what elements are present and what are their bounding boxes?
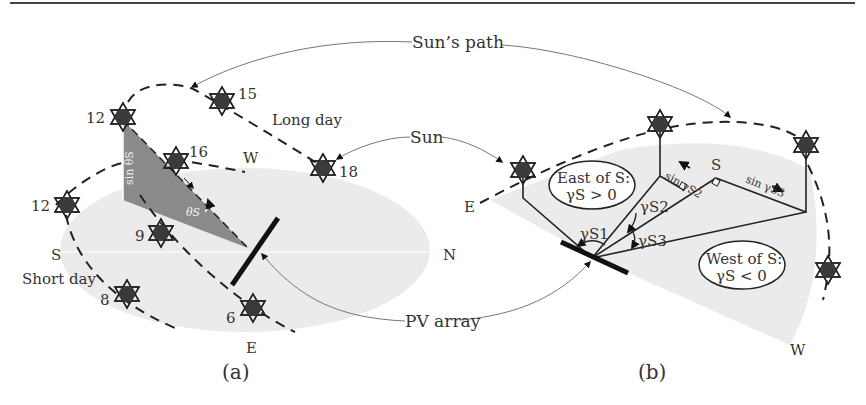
compass-west: W <box>243 149 259 167</box>
sun-callout: Sun <box>410 127 444 147</box>
compass-south: S <box>51 246 61 264</box>
west-of-south-label: West of S: <box>706 250 782 268</box>
compass-south-b: S <box>711 156 721 174</box>
short-day-label: Short day <box>22 270 96 288</box>
hour-label: 8 <box>100 291 110 309</box>
sun-icon <box>55 191 79 219</box>
theta-label: θS <box>186 206 201 219</box>
gamma-s1-label: γS1 <box>580 225 609 243</box>
hour-label: 12 <box>31 197 50 215</box>
solar-geometry-figure: 12 15 16 18 12 9 8 6 Long day Short day … <box>0 0 866 405</box>
gamma-s2-label: γS2 <box>640 198 669 216</box>
panel-b: East of S: γS > 0 West of S: γS < 0 γS1 … <box>464 110 840 384</box>
east-of-south-condition: γS > 0 <box>566 186 617 204</box>
compass-north: N <box>443 246 456 264</box>
hour-label: 6 <box>226 309 236 327</box>
long-day-label: Long day <box>272 111 343 129</box>
hour-label: 9 <box>135 227 145 245</box>
west-of-south-condition: γS < 0 <box>716 267 767 285</box>
sun-icon <box>816 256 840 284</box>
suns-path-callout: Sun’s path <box>412 32 504 52</box>
hour-label: 12 <box>86 109 105 127</box>
compass-west-b: W <box>790 341 806 359</box>
hour-label: 16 <box>189 143 208 161</box>
panel-a: 12 15 16 18 12 9 8 6 Long day Short day … <box>22 84 456 384</box>
hour-label: 18 <box>339 163 358 181</box>
gamma-s3-label: γS3 <box>638 232 667 250</box>
compass-east: E <box>246 339 257 357</box>
sin-theta-label: sin θS <box>123 151 136 185</box>
pv-array-callout: PV array <box>405 311 481 331</box>
compass-east-b: E <box>464 198 475 216</box>
caption-a: (a) <box>222 360 250 384</box>
hour-label: 15 <box>238 85 257 103</box>
sun-icon <box>210 87 234 115</box>
east-of-south-label: East of S: <box>557 169 630 187</box>
caption-b: (b) <box>638 360 666 384</box>
